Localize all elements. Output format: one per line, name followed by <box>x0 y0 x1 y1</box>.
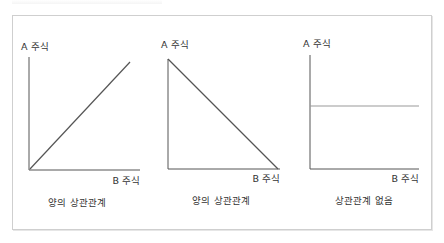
x-axis-label: B 주식 <box>112 175 140 186</box>
y-axis-label: A 주식 <box>303 38 331 49</box>
y-axis-label: A 주식 <box>21 41 49 52</box>
decreasing-line <box>168 59 278 169</box>
panel-caption: 양의 상관관계 <box>48 197 105 208</box>
x-axis-label: B 주식 <box>252 173 280 184</box>
panel-positive-correlation: A 주식 B 주식 양의 상관관계 <box>21 41 140 208</box>
increasing-line <box>30 62 130 169</box>
panel-no-correlation: A 주식 B 주식 상관관계 없음 <box>303 38 419 206</box>
x-axis-label: B 주식 <box>391 173 419 184</box>
correlation-diagram: A 주식 B 주식 양의 상관관계 A 주식 B 주식 양의 상관관계 A 주식… <box>0 0 444 243</box>
panel-negative-slope: A 주식 B 주식 양의 상관관계 <box>161 39 280 206</box>
panel-caption: 양의 상관관계 <box>192 195 249 206</box>
panel-caption: 상관관계 없음 <box>335 195 392 206</box>
y-axis-label: A 주식 <box>161 39 189 50</box>
